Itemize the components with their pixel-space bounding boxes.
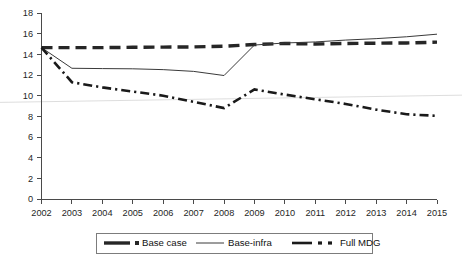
faint-gridline	[0, 95, 462, 102]
legend-marker-square	[135, 241, 139, 245]
x-tick-label: 2007	[183, 208, 203, 218]
series-line-base-case	[42, 42, 438, 47]
y-tick-label: 10	[23, 91, 33, 101]
series-lines	[42, 34, 438, 116]
x-tick-label: 2015	[427, 208, 447, 218]
legend-marker-dot	[328, 241, 332, 244]
x-axis-ticks: 2002200320042005200620072008200920102011…	[31, 200, 447, 219]
legend-label-3: Full MDG	[340, 237, 381, 248]
gridlines	[0, 95, 462, 102]
x-tick-label: 2012	[336, 208, 356, 218]
series-line-base-infra	[42, 34, 438, 75]
y-tick-label: 14	[23, 50, 33, 60]
x-tick-label: 2011	[305, 208, 325, 218]
legend-label-1: Base case	[142, 237, 187, 248]
y-tick-label: 18	[23, 8, 33, 18]
chart-legend: Base caseBase-infraFull MDG	[96, 233, 381, 253]
y-tick-label: 0	[28, 194, 33, 204]
x-tick-label: 2009	[244, 208, 264, 218]
chart-container: 024681012141618 200220032004200520062007…	[0, 0, 462, 262]
line-chart: 024681012141618 200220032004200520062007…	[0, 0, 462, 262]
x-tick-label: 2004	[92, 208, 112, 218]
y-tick-label: 12	[23, 70, 33, 80]
y-tick-label: 16	[23, 29, 33, 39]
x-tick-label: 2002	[31, 208, 51, 218]
y-axis-ticks: 024681012141618	[23, 8, 42, 204]
x-tick-label: 2006	[153, 208, 173, 218]
x-tick-label: 2005	[123, 208, 143, 218]
x-tick-label: 2013	[366, 208, 386, 218]
x-tick-label: 2008	[214, 208, 234, 218]
x-tick-label: 2014	[396, 208, 416, 218]
x-tick-label: 2003	[62, 208, 82, 218]
y-tick-label: 4	[28, 153, 33, 163]
y-tick-label: 8	[28, 112, 33, 122]
y-tick-label: 6	[28, 132, 33, 142]
legend-marker-dot	[318, 241, 322, 244]
x-tick-label: 2010	[275, 208, 295, 218]
y-tick-label: 2	[28, 174, 33, 184]
legend-label-2: Base-infra	[228, 237, 272, 248]
series-line-full-mdg	[42, 48, 438, 116]
